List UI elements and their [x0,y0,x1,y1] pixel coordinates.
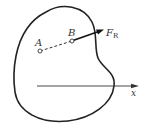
label-point-a: A [34,37,42,48]
label-force: FR [105,27,119,40]
label-force-subscript: R [113,32,119,40]
diagram-canvas: A B FR x [0,0,147,137]
diagram-svg: A B FR x [0,0,147,137]
line-of-action-dashed [40,41,72,51]
label-x-axis: x [131,88,136,98]
label-point-b: B [67,27,75,38]
point-b-marker [70,39,74,43]
point-a-marker [38,49,42,53]
rigid-body-outline [14,7,114,122]
arrowhead-icon [96,30,104,35]
